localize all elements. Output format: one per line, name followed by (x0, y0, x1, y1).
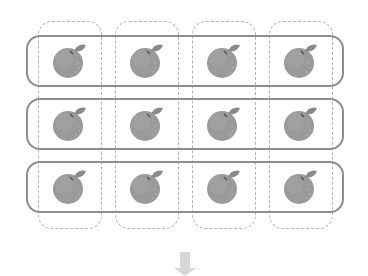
orange-icon (50, 167, 90, 207)
orange-icon (204, 41, 244, 81)
orange-icon (204, 104, 244, 144)
orange-icon (50, 41, 90, 81)
orange-icon (50, 104, 90, 144)
orange-icon (281, 167, 321, 207)
orange-icon (127, 41, 167, 81)
orange-icon (127, 167, 167, 207)
orange-icon (281, 41, 321, 81)
orange-icon (204, 167, 244, 207)
down-arrow-icon (174, 252, 196, 276)
orange-icon (127, 104, 167, 144)
orange-icon (281, 104, 321, 144)
